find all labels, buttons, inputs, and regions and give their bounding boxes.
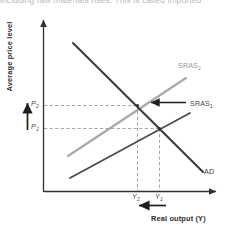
- equilibrium-point-1: [158, 127, 161, 130]
- diagram-canvas: [0, 0, 233, 230]
- sras1-curve: [70, 113, 190, 178]
- price-tick-p2: P2: [31, 99, 39, 109]
- stagflation-ad-sras-diagram: including raw materials rises. This is c…: [0, 0, 233, 230]
- y-axis-title: Average price level: [5, 19, 14, 95]
- x-axis-title: Real output (Y): [151, 214, 206, 223]
- sras1-curve-label: SRAS1: [190, 99, 213, 109]
- output-tick-y2: Y2: [132, 192, 140, 202]
- output-tick-y1: Y1: [155, 192, 163, 202]
- price-tick-p1: P1: [31, 122, 39, 132]
- sras2-curve-label: SRAS2: [178, 61, 201, 71]
- sras2-curve: [68, 78, 186, 156]
- ad-curve-label: AD: [204, 167, 214, 176]
- equilibrium-point-2: [136, 104, 139, 107]
